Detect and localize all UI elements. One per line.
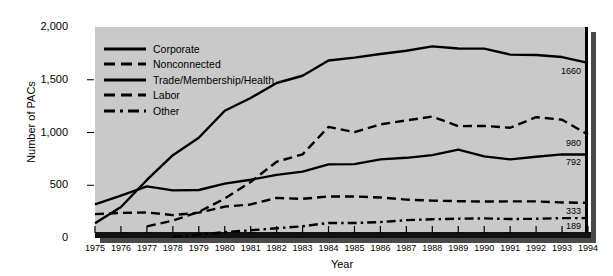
y-tick-label: 1,500: [22, 73, 68, 85]
y-tick-label: 2,000: [22, 20, 68, 32]
legend-item-label: Trade/Membership/Health: [153, 74, 274, 86]
legend-item-label: Nonconnected: [153, 58, 221, 70]
y-axis-title: Number of PACs: [25, 47, 37, 197]
legend-line-swatch: [103, 105, 147, 117]
legend-item-label: Labor: [153, 89, 180, 101]
legend-item-label: Other: [153, 105, 179, 117]
x-axis-baseline: [95, 232, 591, 238]
panel-shadow-right: [591, 32, 596, 243]
series-end-label: 333: [547, 206, 581, 216]
chart-legend: CorporateNonconnectedTrade/Membership/He…: [103, 41, 274, 119]
legend-item-1: Corporate: [103, 41, 274, 57]
series-end-label: 980: [547, 138, 581, 148]
legend-line-swatch: [103, 74, 147, 86]
series-end-label: 1660: [547, 66, 581, 76]
legend-item-5: Other: [103, 103, 274, 119]
series-end-label: 189: [547, 221, 581, 231]
x-tick-label: 1994: [573, 243, 603, 253]
pac-growth-line-chart: Number of PACs Year 05001,0001,5002,000 …: [0, 0, 613, 276]
legend-line-swatch: [103, 43, 147, 55]
legend-line-swatch: [103, 89, 147, 101]
y-tick-label: 500: [22, 178, 68, 190]
series-end-label: 792: [547, 157, 581, 167]
legend-item-label: Corporate: [153, 43, 200, 55]
x-axis-title: Year: [95, 258, 589, 270]
y-tick-label: 0: [22, 231, 68, 243]
y-tick-label: 1,000: [22, 126, 68, 138]
legend-item-3: Trade/Membership/Health: [103, 72, 274, 88]
legend-item-2: Nonconnected: [103, 57, 274, 73]
legend-line-swatch: [103, 58, 147, 70]
legend-item-4: Labor: [103, 88, 274, 104]
